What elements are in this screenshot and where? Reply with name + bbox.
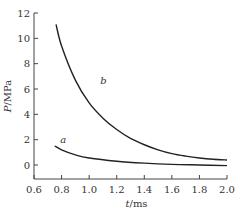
y-tick-label: 2 <box>24 134 30 145</box>
curves <box>55 24 227 165</box>
y-axis-title: P/MPa <box>2 80 13 114</box>
x-tick-label: 1.2 <box>109 184 125 195</box>
x-axis-title: t/ms <box>125 198 147 209</box>
curve-label-a: a <box>60 134 66 145</box>
x-tick-label: 1.6 <box>164 184 180 195</box>
y-tick-label: 12 <box>17 8 30 19</box>
y-tick-label: 4 <box>24 109 30 120</box>
x-tick-label: 0.8 <box>54 184 70 195</box>
axes: 0246810120.60.81.01.21.41.61.82.0 <box>17 8 235 196</box>
curve-b <box>56 24 227 160</box>
curve-label-b: b <box>100 75 106 86</box>
y-tick-label: 6 <box>24 84 30 95</box>
curve-a <box>55 146 227 166</box>
y-tick-label: 10 <box>17 33 30 44</box>
x-tick-label: 1.8 <box>191 184 207 195</box>
x-tick-label: 1.4 <box>136 184 152 195</box>
y-tick-label: 0 <box>24 160 30 171</box>
pressure-time-chart: 0246810120.60.81.01.21.41.61.82.0 t/msP/… <box>0 0 240 211</box>
x-tick-label: 0.6 <box>26 184 42 195</box>
y-tick-label: 8 <box>24 58 30 69</box>
x-tick-label: 2.0 <box>219 184 235 195</box>
x-tick-label: 1.0 <box>81 184 97 195</box>
